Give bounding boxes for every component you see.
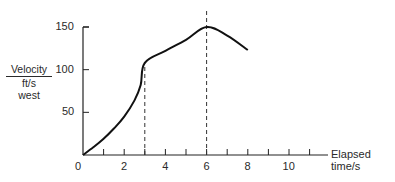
x-tick-label: 4 [162,160,168,172]
y-label-direction: west [6,89,52,101]
y-label-units: ft/s [6,77,52,89]
y-tick-label: 150 [56,20,74,32]
y-tick-label: 100 [56,63,74,75]
y-ticks [83,27,89,112]
x-tick-label: 0 [75,160,81,172]
x-tick-label: 2 [121,160,127,172]
x-tick-label: 6 [203,160,209,172]
y-label-velocity: Velocity [6,63,52,77]
y-tick-label: 50 [62,105,74,117]
x-tick-label: 10 [283,160,295,172]
x-axis-label: Elapsed time/s [331,148,395,172]
dashed-reference-lines [145,8,207,155]
x-tick-label: 8 [245,160,251,172]
y-axis-label: Velocity ft/s west [6,63,52,101]
velocity-curve [83,27,248,155]
axes [83,27,328,155]
